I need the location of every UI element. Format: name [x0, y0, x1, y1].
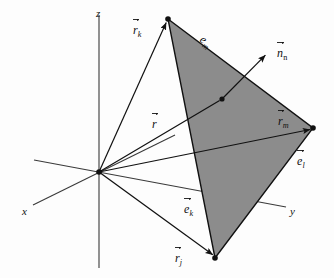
- vector-label-e-l: el: [297, 155, 305, 170]
- axis-label-y: y: [290, 206, 295, 217]
- vertex-marker-k: [165, 16, 171, 22]
- vertex-marker-m: [310, 125, 316, 131]
- axis-line-x: [33, 135, 175, 205]
- vector-label-r: r: [152, 118, 157, 131]
- triangular-panel: [168, 19, 313, 258]
- vector-diagram-figure: z x y rk r rj rm nn em el ek: [0, 0, 334, 278]
- vector-label-e-k: ek: [184, 203, 193, 218]
- vector-label-r-j: rj: [175, 252, 182, 267]
- vector-label-r-m: rm: [278, 115, 289, 130]
- vector-label-n-n: nn: [277, 47, 287, 62]
- origin-marker: [96, 169, 102, 175]
- axis-label-x: x: [22, 206, 27, 217]
- panel-centroid-point: [219, 96, 224, 101]
- vector-label-r-k: rk: [133, 24, 141, 39]
- vector-line-r-j: [99, 172, 213, 255]
- axis-label-z: z: [96, 8, 100, 19]
- vector-line-r-k: [99, 23, 166, 172]
- vertex-marker-j: [212, 255, 218, 261]
